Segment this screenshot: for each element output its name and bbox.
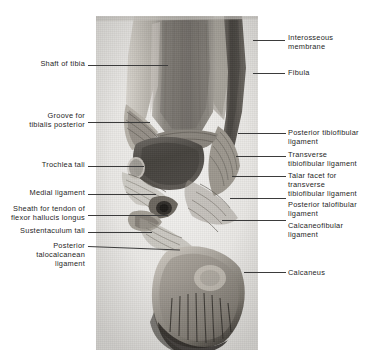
leader-line-posterior-talofibular-ligament <box>230 198 286 199</box>
label-talar-facet-transverse-tibiofibular-ligament: Talar facet for transverse tibiofibular … <box>288 171 371 199</box>
leader-line-fibula <box>253 73 285 74</box>
specimen-drawing <box>96 16 258 350</box>
leader-line-transverse-tibiofibular-ligament <box>236 156 286 157</box>
dissection-photograph <box>96 16 258 350</box>
label-shaft-of-tibia: Shaft of tibia <box>0 59 85 68</box>
label-posterior-talofibular-ligament: Posterior talofibular ligament <box>288 200 371 218</box>
leader-line-calcaneofibular-ligament <box>222 220 286 221</box>
leader-line-trochlea-tali <box>88 166 144 167</box>
leader-line-groove-for-tibialis-posterior <box>88 122 150 123</box>
leader-line-sheath-flexor-hallucis-longus <box>88 215 168 216</box>
label-sheath-flexor-hallucis-longus: Sheath for tendon of flexor hallucis lon… <box>0 204 85 222</box>
label-transverse-tibiofibular-ligament: Transverse tibiofibular ligament <box>288 150 371 168</box>
leader-line-calcaneus <box>244 272 286 273</box>
leader-line-talar-facet-transverse-tibiofibular-ligament <box>232 176 286 177</box>
label-calcaneofibular-ligament: Calcaneofibular ligament <box>288 221 371 239</box>
leader-line-medial-ligament <box>88 194 156 195</box>
label-medial-ligament: Medial ligament <box>0 188 85 197</box>
label-trochlea-tali: Trochlea tali <box>0 160 85 169</box>
label-fibula: Fibula <box>288 68 371 77</box>
label-interosseous-membrane: Interosseous membrane <box>288 33 371 51</box>
leader-line-sustentaculum-tali <box>88 232 152 233</box>
label-groove-for-tibialis-posterior: Groove for tibialis posterior <box>0 111 85 129</box>
label-posterior-tibiofibular-ligament: Posterior tibiofibular ligament <box>288 128 371 146</box>
label-calcaneus: Calcaneus <box>288 268 371 277</box>
anatomical-figure: Shaft of tibia Groove for tibialis poste… <box>0 0 371 350</box>
label-sustentaculum-tali: Sustentaculum tali <box>0 226 85 235</box>
leader-line-posterior-tibiofibular-ligament <box>238 133 286 134</box>
leader-line-shaft-of-tibia <box>88 65 168 66</box>
label-posterior-talocalcanean-ligament: Posterior talocalcanean ligament <box>0 241 85 269</box>
leader-line-interosseous-membrane <box>253 40 285 41</box>
